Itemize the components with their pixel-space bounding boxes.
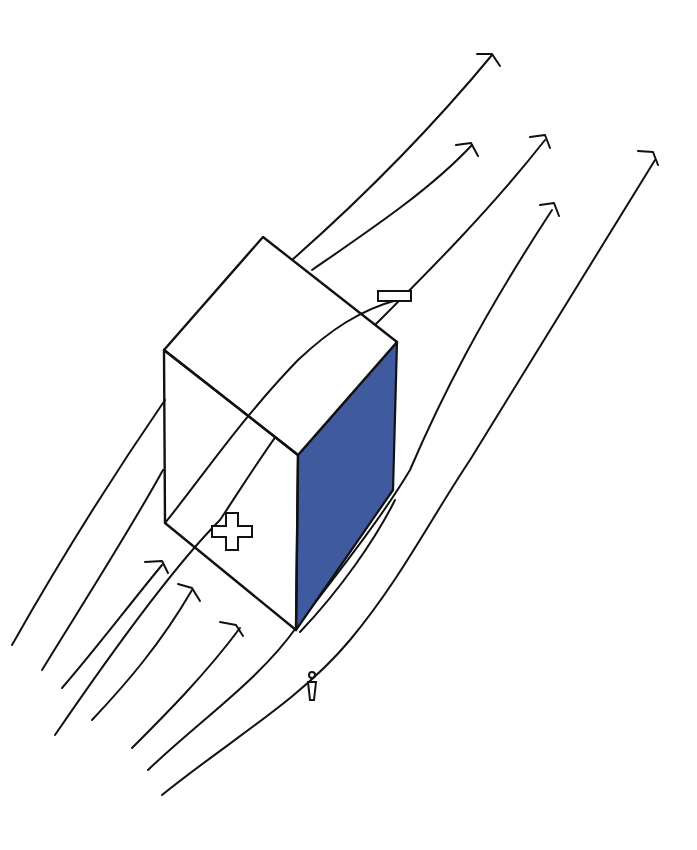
person-figure xyxy=(308,672,316,700)
arrowhead-icon xyxy=(178,584,200,601)
building-block xyxy=(164,237,397,630)
plus-icon xyxy=(212,513,252,550)
streamline-2 xyxy=(292,55,492,260)
minus-icon xyxy=(378,291,411,301)
person-body-icon xyxy=(308,682,316,700)
streamline-7 xyxy=(92,590,192,720)
arrowhead-icon xyxy=(220,622,243,636)
streamline-6 xyxy=(62,565,162,688)
positive-pressure-label xyxy=(212,513,252,550)
streamline-1 xyxy=(12,400,165,645)
streamline-8 xyxy=(132,628,240,748)
wind-flow-diagram: Wind flow around building sketch xyxy=(0,0,697,850)
person-head-icon xyxy=(309,672,315,678)
streamline-10 xyxy=(162,160,655,795)
arrowhead-icon xyxy=(638,151,658,165)
negative-pressure-label xyxy=(378,291,411,301)
